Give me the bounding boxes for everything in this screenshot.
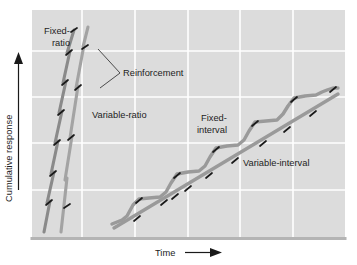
x-axis-label: Time bbox=[155, 248, 175, 258]
fixed-interval-label-line2: interval bbox=[197, 125, 227, 135]
reinforcement-label: Reinforcement bbox=[123, 68, 184, 78]
x-axis-arrow bbox=[185, 248, 222, 257]
reinforcement-schedules-chart: Reinforcement Fixed- ratio Variabl bbox=[0, 0, 357, 265]
fixed-ratio-label-line1: Fixed- bbox=[44, 26, 70, 36]
fixed-interval-label-line1: Fixed- bbox=[201, 113, 227, 123]
cumulative-response-figure: Reinforcement Fixed- ratio Variabl bbox=[0, 0, 357, 265]
y-axis-arrow bbox=[14, 52, 23, 190]
y-axis-label: Cumulative response bbox=[4, 115, 14, 202]
fixed-ratio-label-line2: ratio bbox=[52, 38, 70, 48]
variable-interval-label: Variable-interval bbox=[243, 158, 310, 168]
variable-ratio-label: Variable-ratio bbox=[92, 110, 147, 120]
